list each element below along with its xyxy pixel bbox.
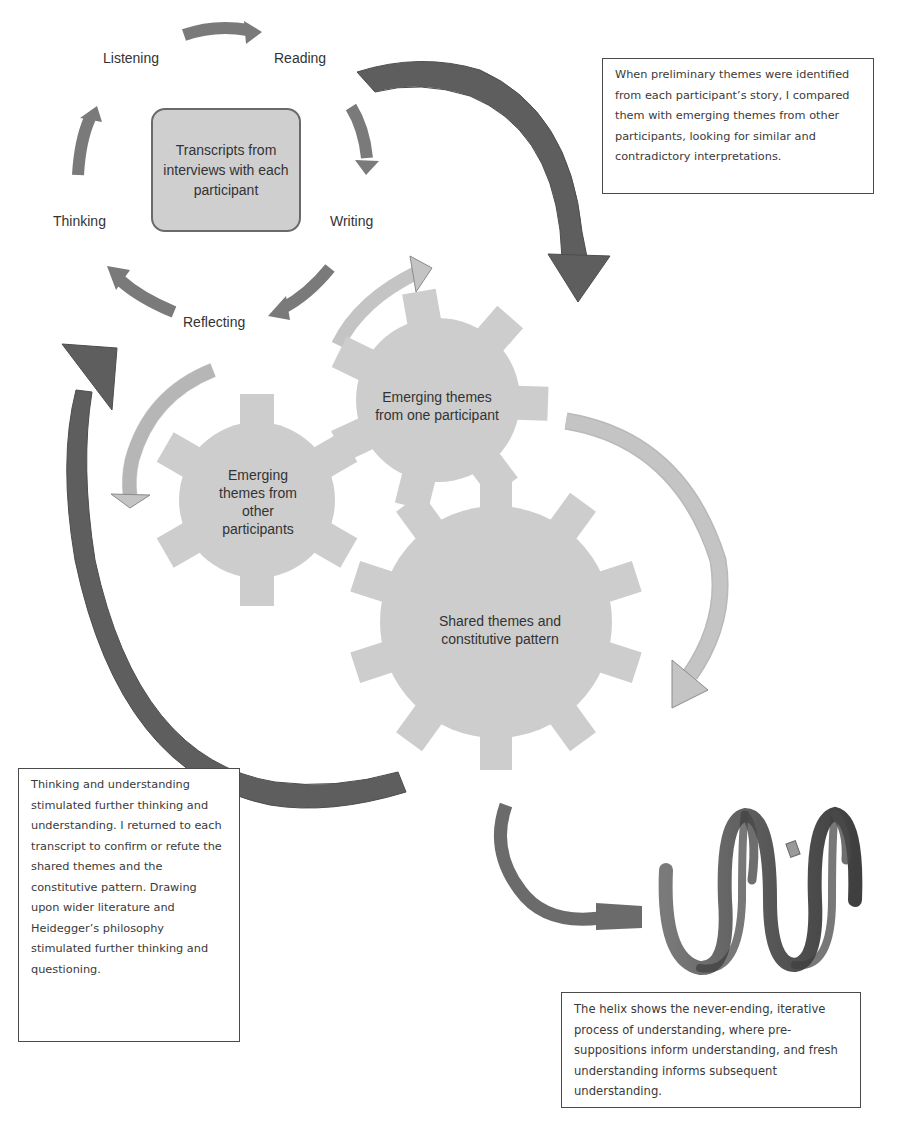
arrow-writing-to-reflecting-icon — [268, 268, 330, 320]
gear-label-one-participant: Emerging themes from one participant — [368, 388, 506, 424]
note-helix-explanation: The helix shows the never-ending, iterat… — [561, 992, 861, 1108]
cycle-label-reading: Reading — [274, 50, 326, 66]
arrow-listening-to-reading-icon — [184, 21, 262, 44]
arrow-thinking-to-listening-icon — [78, 106, 102, 175]
note-compare-themes: When preliminary themes were identified … — [602, 58, 874, 194]
cycle-label-reflecting: Reflecting — [183, 314, 245, 330]
note-thinking-understanding: Thinking and understanding stimulated fu… — [18, 768, 240, 1042]
gear-label-other-participants: Emerging themes from other participants — [210, 466, 306, 538]
arrow-reflecting-to-thinking-icon — [107, 266, 174, 312]
arrow-reading-to-writing-icon — [351, 107, 379, 175]
cycle-label-listening: Listening — [103, 50, 159, 66]
cycle-label-thinking: Thinking — [53, 213, 106, 229]
big-arrow-to-gears-icon — [357, 61, 610, 302]
transcripts-box: Transcripts from interviews with each pa… — [151, 108, 301, 232]
big-arrow-return-icon — [62, 344, 406, 808]
gear-label-shared: Shared themes and constitutive pattern — [425, 612, 575, 648]
cycle-label-writing: Writing — [330, 213, 373, 229]
helix-icon — [666, 814, 856, 969]
arrow-to-helix-icon — [500, 805, 642, 930]
